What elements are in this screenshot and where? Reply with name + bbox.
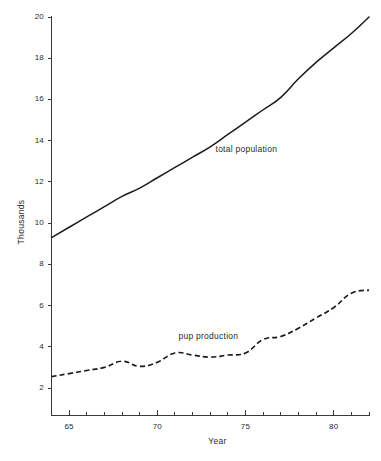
x-axis-title: Year: [196, 436, 240, 446]
chart-canvas: [0, 0, 381, 461]
total-population-label: total population: [216, 144, 278, 154]
y-tick-label: 20: [22, 12, 44, 21]
y-tick-label: 18: [22, 53, 44, 62]
y-tick-label: 2: [22, 383, 44, 392]
x-tick-label: 75: [234, 422, 258, 431]
data-series: [52, 17, 370, 377]
series-total-population: [52, 17, 370, 238]
y-tick-label: 16: [22, 94, 44, 103]
y-tick-label: 8: [22, 259, 44, 268]
y-axis-title: Thousands: [16, 185, 26, 259]
line-chart: 2468101214161820 65707580 Thousands Year…: [0, 0, 381, 461]
pup-production-label: pup production: [179, 331, 239, 341]
x-tick-label: 70: [145, 422, 169, 431]
x-tick-marks: [52, 410, 370, 416]
x-tick-label: 65: [57, 422, 81, 431]
axes: [52, 16, 370, 416]
y-tick-label: 6: [22, 301, 44, 310]
y-tick-label: 14: [22, 136, 44, 145]
x-tick-label: 80: [322, 422, 346, 431]
y-tick-label: 4: [22, 342, 44, 351]
